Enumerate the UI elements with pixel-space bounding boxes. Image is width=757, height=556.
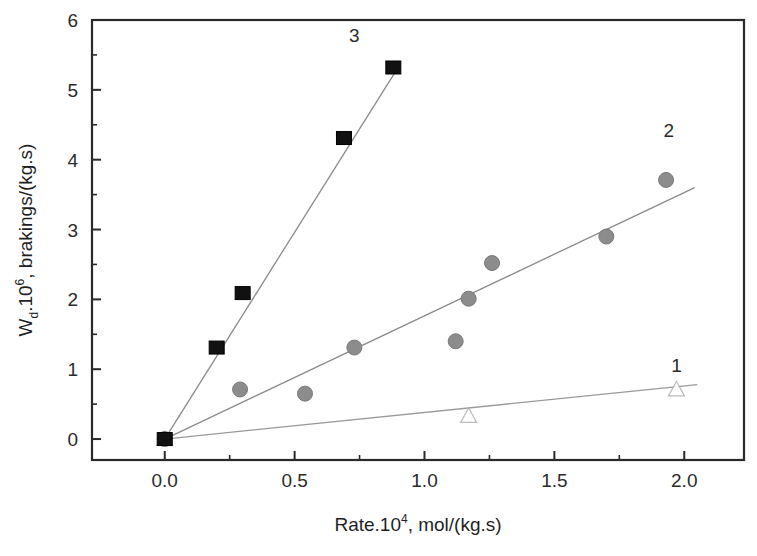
data-point-series-3 [157,433,172,446]
y-tick-label: 1 [67,359,78,380]
y-tick-label: 6 [67,10,78,31]
data-point-series-3 [209,341,224,354]
y-axis-title-subscript: d [27,312,41,319]
y-axis-title-mid: .10 [15,285,36,311]
scatter-plot-svg: 0.00.51.01.52.00123456123Rate.104, mol/(… [0,0,757,556]
x-tick-label: 0.5 [281,470,307,491]
y-tick-label: 0 [67,429,78,450]
x-tick-label: 0.0 [152,470,178,491]
data-point-series-2 [448,334,463,349]
data-point-series-2 [298,386,313,401]
data-point-series-3 [386,61,401,74]
y-axis-title: Wd.106, brakings/(kg.s) [13,144,41,337]
y-tick-label: 4 [67,150,78,171]
y-tick-label: 5 [67,80,78,101]
series-label-1: 1 [671,355,682,376]
data-point-series-2 [485,256,500,271]
data-point-series-2 [461,291,476,306]
data-point-series-2 [233,382,248,397]
x-tick-label: 1.5 [541,470,567,491]
plot-frame [92,20,744,460]
x-axis-title-main: Rate.10 [334,514,401,535]
y-axis-title-main: W [15,318,36,336]
data-point-series-2 [659,172,674,187]
axis-ticks-group: 0.00.51.01.52.00123456 [67,10,697,491]
data-point-series-3 [235,287,250,300]
y-tick-label: 2 [67,289,78,310]
data-points-group [157,61,685,447]
plot-frame-group [92,20,744,460]
y-axis-title-rest: , brakings/(kg.s) [15,144,36,279]
series-labels-group: 123 [349,25,682,376]
x-axis-title-rest: , mol/(kg.s) [408,514,502,535]
y-tick-label: 3 [67,220,78,241]
chart-figure: 0.00.51.01.52.00123456123Rate.104, mol/(… [0,0,757,556]
data-point-series-1 [668,381,684,395]
x-axis-title: Rate.104, mol/(kg.s) [334,512,501,535]
series-label-2: 2 [663,120,674,141]
data-point-series-2 [599,229,614,244]
series-label-3: 3 [349,25,360,46]
data-point-series-1 [461,408,477,422]
x-tick-label: 1.0 [411,470,437,491]
data-point-series-2 [347,340,362,355]
data-point-series-3 [336,132,351,145]
x-tick-label: 2.0 [671,470,697,491]
